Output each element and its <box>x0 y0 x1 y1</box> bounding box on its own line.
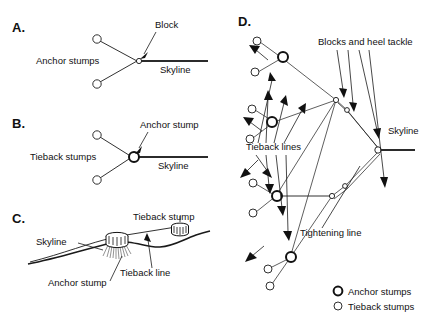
panel-a-anchor-stump-lower <box>93 80 101 88</box>
panel-c-letter: C. <box>12 211 25 226</box>
panel-d-tieback-stump-4a <box>264 265 272 273</box>
panel-d-tieback-stump-1b <box>251 68 259 76</box>
panel-a-block-symbol <box>136 58 141 63</box>
panel-c-tieback-line-leader <box>148 240 152 268</box>
panel-b-skyline-label: Skyline <box>158 160 189 171</box>
panel-d-tieback-stump-3a <box>249 179 257 187</box>
panel-b-anchor-stump-label: Anchor stump <box>140 119 199 130</box>
panel-d-tieback-stump-1a <box>253 37 261 45</box>
anchor-systems-diagram: A. Skyline Anchor stumps Block B. Skylin… <box>0 0 430 321</box>
panel-c: C. <box>12 211 210 288</box>
legend-tieback-stump-symbol <box>334 302 342 310</box>
panel-c-tieback-line-arrowhead <box>144 233 151 242</box>
legend-anchor-stumps-label: Anchor stumps <box>348 286 412 297</box>
panel-c-tieback-line-label: Tieback line <box>120 267 170 278</box>
panel-d: D. <box>238 14 419 290</box>
legend: Anchor stumps Tieback stumps <box>334 286 415 312</box>
panel-c-anchor-stump <box>103 232 131 259</box>
panel-c-tieback-rope <box>120 227 176 236</box>
panel-b-anchor-leader <box>139 132 148 148</box>
panel-c-anchor-stump-label: Anchor stump <box>48 277 107 288</box>
figure-canvas: A. Skyline Anchor stumps Block B. Skylin… <box>0 0 430 321</box>
panel-d-block-upper <box>333 97 338 102</box>
panel-a-guyline-lower <box>100 61 137 82</box>
panel-d-tieback-stump-3b <box>249 209 257 217</box>
panel-b-anchor-arrowhead <box>135 146 142 154</box>
panel-d-anchor-stump-4 <box>286 252 296 262</box>
panel-d-skyline-label: Skyline <box>388 125 419 136</box>
panel-d-tightening-line-label: Tightening line <box>300 227 361 238</box>
panel-b-tieback-line-upper <box>100 137 132 157</box>
panel-d-tieback-leaders <box>240 45 306 262</box>
panel-b-tieback-stump-lower <box>93 176 101 184</box>
panel-b-tieback-stump-upper <box>93 131 101 139</box>
legend-anchor-stump-symbol <box>334 287 343 296</box>
panel-d-block-lower <box>329 193 334 198</box>
panel-a-block-leader <box>144 32 156 54</box>
panel-b-tieback-line-lower <box>100 157 132 178</box>
panel-a-letter: A. <box>12 20 25 35</box>
panel-d-heel-block-upper <box>345 108 350 113</box>
panel-d-tieback-lines-label: Tieback lines <box>246 141 301 152</box>
panel-a-block-label: Block <box>155 19 178 30</box>
panel-a-anchor-stumps-label: Anchor stumps <box>36 55 100 66</box>
panel-d-blocks-heel-tackle-label: Blocks and heel tackle <box>318 36 413 47</box>
panel-a: A. Skyline Anchor stumps Block <box>12 19 208 88</box>
panel-d-blocks-leaders <box>337 50 388 188</box>
panel-d-tightening-line-leader <box>322 166 360 228</box>
panel-b-letter: B. <box>12 116 25 131</box>
panel-a-guyline-upper <box>100 41 137 61</box>
panel-d-letter: D. <box>238 14 251 29</box>
panel-d-tieback-stump-2a <box>248 105 256 113</box>
legend-tieback-stumps-label: Tieback stumps <box>348 301 414 312</box>
panel-d-anchor-stump-1 <box>278 52 288 62</box>
panel-c-tieback-stump-label: Tieback stump <box>133 211 194 222</box>
panel-a-block-arrowhead <box>140 52 148 59</box>
panel-a-skyline-label: Skyline <box>160 64 191 75</box>
panel-c-skyline-label: Skyline <box>36 236 67 247</box>
panel-b: B. Skyline Tieback stumps Anchor stump <box>12 116 208 184</box>
panel-d-tieback-stump-4b <box>266 282 274 290</box>
panel-c-tieback-stump <box>172 223 189 236</box>
panel-a-anchor-stump-upper <box>93 35 101 43</box>
panel-d-anchor-stump-2 <box>267 117 277 127</box>
panel-b-tieback-stumps-label: Tieback stumps <box>30 151 96 162</box>
